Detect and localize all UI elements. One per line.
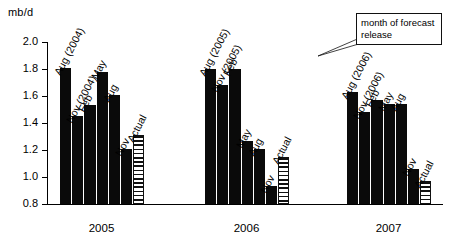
y-tick-mark — [42, 123, 48, 124]
y-tick-mark — [42, 204, 48, 205]
bar — [371, 100, 382, 204]
y-tick-label: 0.8 — [2, 197, 38, 209]
bar-chart: mb/d 2.01.81.61.41.21.00.8 Aug (2004)Nov… — [0, 0, 450, 252]
x-axis-group-label: 2007 — [347, 222, 430, 234]
bar — [84, 105, 95, 204]
y-tick-label: 1.6 — [2, 89, 38, 101]
x-axis-group-label: 2006 — [205, 222, 288, 234]
bar — [133, 135, 144, 204]
y-tick-mark — [42, 177, 48, 178]
y-tick-label: 1.0 — [2, 170, 38, 182]
y-tick-label: 1.4 — [2, 116, 38, 128]
y-tick-mark — [42, 96, 48, 97]
y-tick-label: 1.8 — [2, 62, 38, 74]
y-tick-mark — [42, 150, 48, 151]
annotation-box: month of forecast release — [356, 13, 442, 45]
y-tick-mark — [42, 69, 48, 70]
bar — [359, 112, 370, 204]
y-tick-label: 1.2 — [2, 143, 38, 155]
bar — [396, 104, 407, 204]
y-tick-mark — [42, 42, 48, 43]
bar — [60, 68, 71, 204]
y-tick-label: 2.0 — [2, 35, 38, 47]
bar — [72, 116, 83, 204]
bar — [384, 104, 395, 204]
bar — [217, 85, 228, 204]
x-axis-group-label: 2005 — [60, 222, 143, 234]
